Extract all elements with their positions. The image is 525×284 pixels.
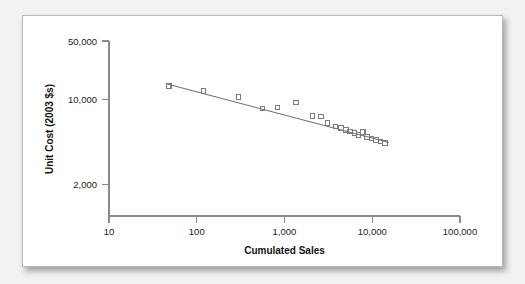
experience-curve-chart: 50,000 10,000 2,000 10 100 1,000 10,000 … — [23, 16, 502, 266]
data-point — [236, 95, 240, 99]
x-tick-label-100000: 100,000 — [443, 226, 477, 237]
x-axis-title: Cumulated Sales — [244, 245, 325, 256]
data-point — [275, 105, 279, 109]
y-tick-label-2000: 2,000 — [73, 179, 97, 190]
x-tick-label-10000: 10,000 — [358, 226, 387, 237]
experience-curve-fit-line — [167, 84, 389, 143]
figure-card: 50,000 10,000 2,000 10 100 1,000 10,000 … — [22, 15, 503, 267]
x-axis-ticks: 10 100 1,000 10,000 100,000 — [104, 216, 477, 237]
data-point — [319, 114, 323, 118]
x-tick-label-10: 10 — [104, 226, 115, 237]
data-point — [294, 100, 298, 104]
y-tick-label-50000: 50,000 — [68, 36, 97, 47]
y-tick-label-10000: 10,000 — [68, 94, 97, 105]
data-point — [311, 114, 315, 118]
data-point — [202, 89, 206, 93]
data-point — [325, 121, 329, 125]
y-axis-title: Unit Cost (2003 $s) — [44, 84, 55, 174]
x-tick-label-1000: 1,000 — [273, 226, 297, 237]
x-tick-label-100: 100 — [189, 226, 205, 237]
y-axis-ticks: 50,000 10,000 2,000 — [68, 36, 109, 190]
